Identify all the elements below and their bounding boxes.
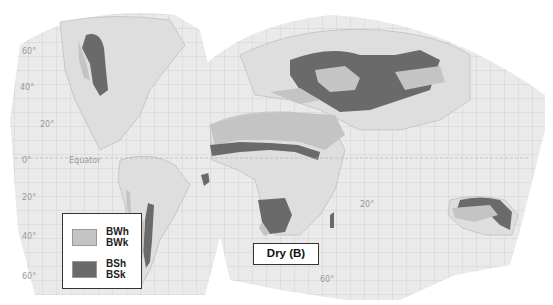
- desert-swatch: [72, 229, 97, 246]
- legend-item-desert: BWh BWk: [72, 226, 129, 248]
- lat-60s-label: 60°: [22, 272, 36, 281]
- legend-item-steppe: BSh BSk: [72, 258, 126, 280]
- lat-40s-label: 40°: [22, 232, 36, 241]
- map-legend: BWh BWk BSh BSk: [62, 213, 142, 289]
- map-title: Dry (B): [253, 243, 319, 265]
- lat-20s-label: 20°: [22, 193, 36, 202]
- equator-deg-label: 0°: [22, 156, 31, 165]
- steppe-swatch: [72, 261, 97, 278]
- legend-code-bwk: BWk: [106, 237, 129, 248]
- lat-60s-east-label: 60°: [320, 275, 334, 284]
- eastern-lobe: [195, 15, 545, 300]
- equator-label: Equator: [69, 156, 100, 165]
- lat-20n-label: 20°: [40, 120, 54, 129]
- lat-20s-east-label: 20°: [360, 200, 374, 209]
- legend-code-bsk: BSk: [106, 269, 126, 280]
- lat-40n-label: 40°: [20, 83, 34, 92]
- legend-code-bwh: BWh: [106, 226, 129, 237]
- lat-60n-label: 60°: [22, 47, 36, 56]
- legend-code-bsh: BSh: [106, 258, 126, 269]
